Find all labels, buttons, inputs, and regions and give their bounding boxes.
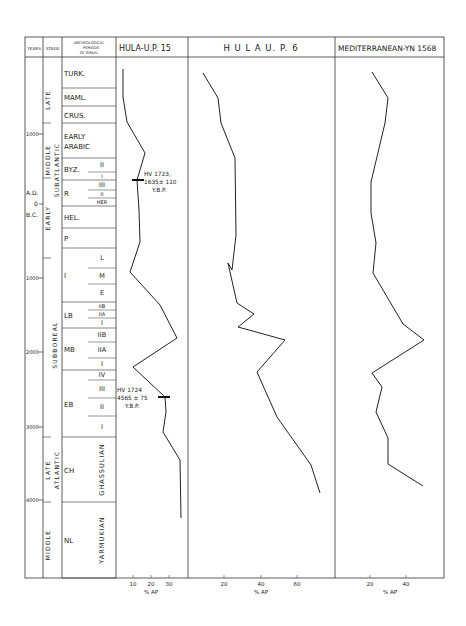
- header-row: YEARSSTAGEARCHEOLOGICALPERIODSOF ISRAELH…: [26, 41, 436, 55]
- sub-period-label: E: [100, 289, 104, 297]
- period-label: I: [64, 272, 66, 280]
- panel3-title: MEDITERRANEAN-YN 1568: [338, 44, 437, 53]
- x-tick-label: 20: [367, 581, 374, 587]
- year-label: 0: [34, 200, 38, 207]
- x-axis-label: % AP: [254, 589, 269, 595]
- period-label: EB: [64, 401, 73, 409]
- pollen-diagram: YEARSSTAGEARCHEOLOGICALPERIODSOF ISRAELH…: [0, 0, 466, 626]
- archeological-periods-column: TURK.MAML.CRUS.EARLYARABICBYZ.IIIRIIIIIH…: [62, 70, 116, 579]
- svg-text:ARABIC: ARABIC: [64, 143, 90, 151]
- year-label: B.C.: [26, 211, 38, 218]
- culture-label: GHASSULIAN: [98, 443, 106, 495]
- x-tick-label: 40: [403, 581, 410, 587]
- stage-label: LATE: [44, 90, 51, 109]
- sub-period-label: II: [100, 161, 104, 169]
- sub-period-label: M: [99, 272, 105, 280]
- stage-label: EARLY: [44, 206, 51, 230]
- period-label: P: [64, 235, 68, 243]
- stage-label: MIDDLE: [44, 530, 51, 561]
- radiocarbon-date: Y.B.P.: [124, 403, 140, 409]
- sub-period-label: II: [101, 191, 104, 197]
- sub-period-label: III: [99, 181, 105, 189]
- radiocarbon-date: HV 1723,: [144, 171, 171, 177]
- radiocarbon-date: Y.B.P.: [151, 187, 167, 193]
- radiocarbon-date: HV 1724: [117, 387, 142, 393]
- x-tick-label: 20: [148, 581, 155, 587]
- years-axis: 1000A.D.0B.C.1000200030004000: [26, 131, 43, 503]
- stage-label: SUBBOREAL: [51, 321, 58, 368]
- radiocarbon-date: 1635± 110: [144, 179, 177, 185]
- sub-period-label: IV: [99, 371, 106, 379]
- period-label: HEL.: [64, 214, 80, 222]
- sub-period-label: IIA: [99, 311, 106, 317]
- period-label: CH: [64, 467, 74, 475]
- period-label: LB: [64, 312, 73, 320]
- x-axis-label: % AP: [383, 589, 398, 595]
- curve-panel-3: [371, 72, 424, 486]
- stage-label: ATLANTIC: [53, 451, 60, 490]
- period-label: TURK.: [63, 70, 85, 78]
- sub-period-label: HER: [97, 199, 108, 205]
- sub-period-label: I: [101, 173, 102, 179]
- chart-frame: [25, 37, 444, 578]
- year-label: 4000: [26, 497, 39, 503]
- period-label: R: [64, 190, 69, 198]
- years-header: YEARS: [26, 46, 41, 51]
- x-tick-label: 60: [294, 581, 301, 587]
- x-tick-label: 40: [258, 581, 265, 587]
- period-label: MB: [64, 346, 75, 354]
- x-axis-label: % AP: [144, 589, 159, 595]
- period-label: BYZ.: [64, 166, 80, 174]
- period-label: CRUS.: [64, 112, 86, 120]
- curve-panel-2: [203, 73, 320, 493]
- stage-label: SUBATLANTIC: [53, 143, 60, 198]
- sub-period-label: I: [101, 360, 103, 368]
- curve-panel-1: [123, 69, 181, 518]
- sub-period-label: I: [101, 423, 103, 431]
- panel2-title: H U L A U. P. 6: [223, 43, 298, 53]
- stage-header: STAGE: [46, 46, 60, 51]
- year-label: 2000: [26, 349, 39, 355]
- x-tick-label: 20: [221, 581, 228, 587]
- archeo-header: ARCHEOLOGICAL: [74, 41, 105, 45]
- sub-period-label: IIB: [98, 331, 106, 339]
- period-label: NL: [64, 537, 73, 545]
- panel1-title: HULA-U.P. 15: [119, 44, 171, 53]
- radiocarbon-date: 4565 ± 75: [117, 395, 148, 401]
- pollen-curves: [123, 69, 424, 518]
- svg-text:PERIODS: PERIODS: [83, 46, 100, 50]
- period-label: MAML.: [64, 94, 87, 102]
- x-tick-label: 10: [130, 581, 137, 587]
- sub-period-label: I: [101, 319, 103, 327]
- sub-period-label: III: [99, 385, 105, 393]
- year-label: A.D.: [26, 189, 39, 196]
- year-label: 3000: [26, 424, 39, 430]
- stage-label: MIDDLE: [44, 145, 51, 176]
- year-label: 1000: [26, 131, 39, 137]
- sub-period-label: IIB: [99, 303, 106, 309]
- culture-label: YARMUKIAN: [98, 516, 106, 564]
- svg-text:OF ISRAEL: OF ISRAEL: [80, 51, 98, 55]
- sub-period-label: L: [100, 254, 104, 262]
- period-label: EARLY: [64, 133, 86, 141]
- x-tick-label: 30: [166, 581, 173, 587]
- stage-column: LATEMIDDLEEARLYSUBATLANTICSUBBOREALLATEM…: [43, 90, 60, 560]
- stage-label: LATE: [44, 460, 51, 479]
- sub-period-label: II: [100, 403, 104, 411]
- year-label: 1000: [26, 275, 39, 281]
- sub-period-label: IIA: [98, 346, 107, 354]
